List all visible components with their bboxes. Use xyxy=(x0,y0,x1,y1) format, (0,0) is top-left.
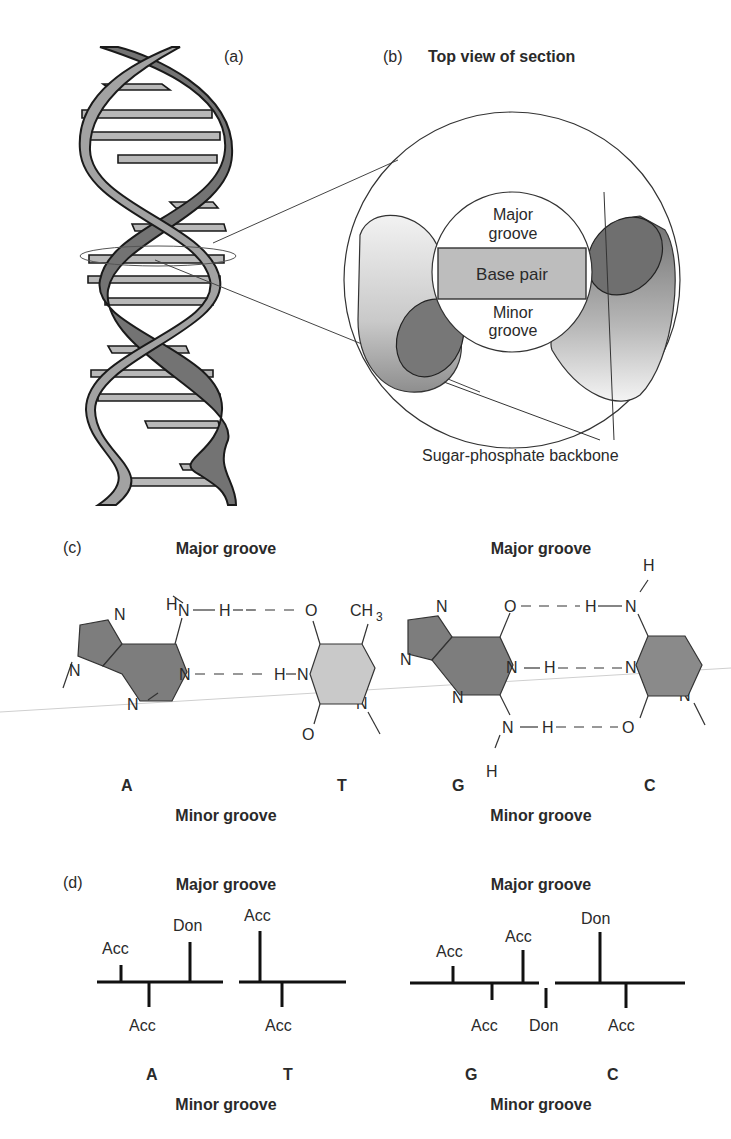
c-base-a: A xyxy=(121,777,133,794)
top-view-minor-groove-line1: Minor xyxy=(493,304,534,321)
atom-n: N xyxy=(127,696,139,713)
d-right-minor-groove: Minor groove xyxy=(490,1096,591,1113)
atom-n: N xyxy=(625,598,637,615)
d-c-major-don: Don xyxy=(581,910,610,927)
d-base-g: G xyxy=(465,1066,477,1083)
d-base-t: T xyxy=(283,1066,293,1083)
panel-d-label: (d) xyxy=(63,874,83,891)
cytosine-structure xyxy=(636,614,705,725)
panel-a-label: (a) xyxy=(224,48,244,65)
atom-ch3-subscript: 3 xyxy=(376,610,383,624)
c-base-c: C xyxy=(644,777,656,794)
atom-o: O xyxy=(302,726,314,743)
d-g-minor-don: Don xyxy=(529,1017,558,1034)
d-t-minor-acc: Acc xyxy=(265,1017,292,1034)
atom-n: N xyxy=(625,659,637,676)
d-base-a: A xyxy=(146,1066,158,1083)
a-t-bonds xyxy=(173,596,300,674)
d-t-major-acc: Acc xyxy=(244,907,271,924)
panel-b-label: (b) xyxy=(383,48,403,65)
atom-n: N xyxy=(178,602,190,619)
atom-n: N xyxy=(502,719,514,736)
adenine-structure xyxy=(63,618,187,701)
d-c-minor-acc: Acc xyxy=(608,1017,635,1034)
atom-h: H xyxy=(544,659,556,676)
d-base-c: C xyxy=(607,1066,619,1083)
atom-n: N xyxy=(297,666,309,683)
c-left-minor-groove: Minor groove xyxy=(175,807,276,824)
atom-n: N xyxy=(400,651,412,668)
top-view-major-groove-line2: groove xyxy=(489,225,538,242)
atom-h: H xyxy=(486,763,498,780)
c-base-g: G xyxy=(452,777,464,794)
atom-ch3: CH xyxy=(350,602,373,619)
panel-b-title: Top view of section xyxy=(428,48,575,65)
atom-n: N xyxy=(114,606,126,623)
guanine-structure xyxy=(408,613,513,748)
top-view-major-groove-line1: Major xyxy=(493,206,534,223)
d-schematic-lines xyxy=(97,931,685,1008)
d-a-major-don: Don xyxy=(173,917,202,934)
panel-c-label: (c) xyxy=(63,539,82,556)
dna-figure: (a) (b) Top view of section Major groove… xyxy=(0,0,731,1139)
atom-n: N xyxy=(179,666,191,683)
d-left-major-groove: Major groove xyxy=(176,876,277,893)
backbone-label: Sugar-phosphate backbone xyxy=(422,447,619,464)
atom-n: N xyxy=(506,659,518,676)
d-a-minor-acc: Acc xyxy=(129,1017,156,1034)
atom-o: O xyxy=(305,602,317,619)
c-base-t: T xyxy=(337,777,347,794)
d-g-major-acc2: Acc xyxy=(505,928,532,945)
double-helix-illustration xyxy=(80,47,236,505)
d-right-major-groove: Major groove xyxy=(491,876,592,893)
backbone-pointer-left xyxy=(444,382,600,440)
atom-n: N xyxy=(452,689,464,706)
c-right-minor-groove: Minor groove xyxy=(490,807,591,824)
thymine-structure xyxy=(310,621,380,734)
c-right-major-groove: Major groove xyxy=(491,540,592,557)
atom-h: H xyxy=(274,666,286,683)
atom-o: O xyxy=(504,598,516,615)
atom-h: H xyxy=(219,602,231,619)
top-view-minor-groove-line2: groove xyxy=(489,322,538,339)
atom-o: O xyxy=(622,719,634,736)
atom-h: H xyxy=(643,557,655,574)
atom-n: N xyxy=(69,662,81,679)
d-g-minor-acc: Acc xyxy=(471,1017,498,1034)
base-pair-label: Base pair xyxy=(476,265,548,284)
d-left-minor-groove: Minor groove xyxy=(175,1096,276,1113)
c-left-major-groove: Major groove xyxy=(176,540,277,557)
d-a-major-acc: Acc xyxy=(102,940,129,957)
atom-h: H xyxy=(542,719,554,736)
atom-h: H xyxy=(585,598,597,615)
d-g-major-acc1: Acc xyxy=(436,943,463,960)
atom-n: N xyxy=(436,598,448,615)
